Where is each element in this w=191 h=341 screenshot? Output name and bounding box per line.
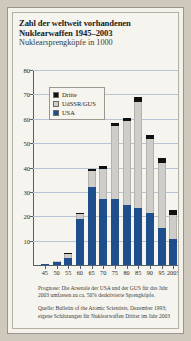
x-axis [33, 265, 179, 266]
bar-column [111, 123, 119, 265]
bar-segment [76, 219, 84, 265]
y-tick-label: 60 [12, 115, 30, 122]
page-title-line1: Zahl der weltweit vorhandenen [19, 18, 173, 28]
chart-header: Zahl der weltweit vorhandenen Nuklearwaf… [19, 18, 173, 49]
bar-segment [41, 264, 49, 265]
bar-column [99, 166, 107, 265]
bar-column [158, 158, 166, 265]
legend-label: Dritte [62, 91, 77, 98]
y-tick-label: 70 [12, 91, 30, 98]
bar-column [88, 169, 96, 265]
figure-frame: Zahl der weltweit vorhandenen Nuklearwaf… [7, 7, 184, 334]
legend-item: USA [53, 108, 101, 117]
bar-segment [99, 199, 107, 265]
bar-segment [99, 169, 107, 199]
bar-column [76, 213, 84, 265]
bar-column [64, 253, 72, 265]
y-tick-label: 20 [12, 213, 30, 220]
note-quelle: Quelle: Bulletin of the Atomic Scientist… [38, 305, 170, 319]
figure-inner: Zahl der weltweit vorhandenen Nuklearwaf… [12, 12, 179, 329]
bar-column [53, 261, 61, 265]
chart-legend: DritteUdSSR/GUSUSA [49, 87, 105, 120]
bar-segment [64, 258, 72, 265]
y-tick-label: 50 [12, 140, 30, 147]
bar-segment [88, 171, 96, 187]
chart-subtitle: Nuklearsprengköpfe in 1000 [19, 38, 173, 49]
bar-segment [111, 126, 119, 199]
legend-swatch-icon [53, 110, 59, 116]
bar-segment [169, 239, 177, 265]
bar-segment [123, 205, 131, 265]
bar-segment [158, 163, 166, 229]
bar-segment [123, 121, 131, 205]
bar-column [134, 97, 142, 265]
chart-notes: Prognose: Die Arsenale der USA und der G… [38, 285, 170, 320]
legend-label: UdSSR/GUS [62, 100, 96, 107]
bar-segment [53, 262, 61, 265]
y-tick-label: 80 [12, 67, 30, 74]
y-tick-label: 30 [12, 188, 30, 195]
legend-swatch-icon [53, 101, 59, 107]
legend-item: UdSSR/GUS [53, 99, 101, 108]
bar-segment [134, 102, 142, 208]
bar-segment [111, 199, 119, 265]
note-prognose: Prognose: Die Arsenale der USA und der G… [38, 285, 170, 299]
x-tick-label: 2003 [162, 269, 179, 276]
bar-segment [88, 187, 96, 265]
bar-segment [134, 208, 142, 265]
bar-column [169, 210, 177, 265]
legend-label: USA [62, 109, 75, 116]
bar-segment [146, 139, 154, 212]
bar-column [41, 264, 49, 265]
bar-segment [146, 213, 154, 265]
y-tick-label: 10 [12, 237, 30, 244]
legend-swatch-icon [53, 92, 59, 98]
bar-segment [169, 215, 177, 239]
y-tick-label: 40 [12, 164, 30, 171]
bar-column [123, 118, 131, 265]
page-title-line2: Nuklearwaffen 1945–2003 [19, 28, 173, 38]
x-tick-mark [173, 266, 174, 269]
bar-segment [158, 228, 166, 265]
bar-column [146, 135, 154, 265]
legend-item: Dritte [53, 90, 101, 99]
